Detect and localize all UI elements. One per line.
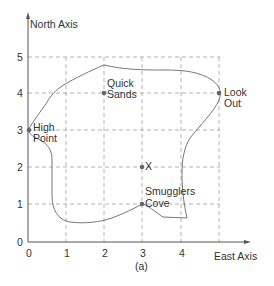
x-tick-4: 4	[179, 247, 185, 259]
x-tick-labels: 0 1 2 3 4	[26, 247, 185, 259]
y-axis-label: North Axis	[30, 18, 78, 30]
x-tick-2: 2	[102, 247, 108, 259]
point-look-out: Look Out	[217, 86, 248, 109]
y-tick-5: 5	[17, 51, 23, 63]
island-map-diagram: 0 1 2 3 4 5 0 1 2 3 4 North Axis East Ax…	[0, 0, 274, 286]
y-tick-4: 4	[17, 87, 23, 99]
figure-caption: (a)	[135, 260, 148, 272]
point-smugglers-cove: Smugglers Cove	[140, 185, 196, 209]
point-quick-sands: Quick Sands	[102, 77, 137, 100]
point-label: Sands	[107, 88, 137, 100]
y-tick-labels: 0 1 2 3 4 5	[17, 51, 23, 248]
point-label: Out	[224, 97, 241, 109]
point-label: Cove	[145, 197, 170, 209]
point-marker-icon	[102, 91, 107, 96]
y-tick-2: 2	[17, 161, 23, 173]
point-marker-icon	[27, 128, 32, 133]
point-label: X	[145, 160, 152, 172]
y-tick-1: 1	[17, 198, 23, 210]
x-tick-3: 3	[140, 247, 146, 259]
y-tick-0: 0	[17, 236, 23, 248]
y-tick-3: 3	[17, 124, 23, 136]
x-tick-1: 1	[64, 247, 70, 259]
axes	[28, 16, 247, 242]
point-marker-icon	[140, 202, 145, 207]
x-axis-label: East Axis	[214, 250, 257, 262]
point-x: X	[140, 160, 152, 172]
point-label: Point	[33, 132, 57, 144]
x-tick-0: 0	[26, 247, 32, 259]
point-label: Smugglers	[145, 185, 195, 197]
x-axis-arrow-icon	[244, 240, 251, 244]
point-marker-icon	[217, 91, 222, 96]
point-marker-icon	[140, 165, 145, 170]
